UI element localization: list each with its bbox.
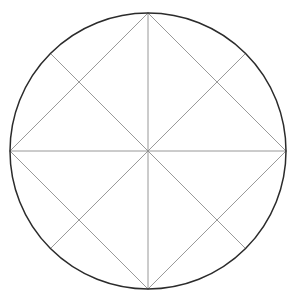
inner-line-group	[10, 13, 286, 289]
figure-canvas: Circle with inscribed square and radial …	[0, 0, 299, 304]
geometric-diagram: Circle with inscribed square and radial …	[0, 0, 299, 304]
